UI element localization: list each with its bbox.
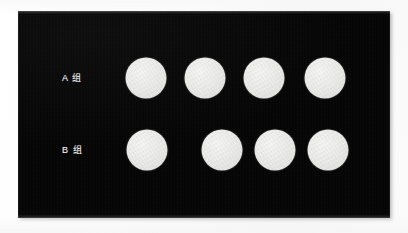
dot-a3 (244, 58, 285, 99)
dot-a4 (305, 58, 346, 99)
dot-b1 (127, 130, 168, 171)
screenshot-canvas: A 组 B 组 (0, 0, 408, 233)
row-label-b: B 组 (62, 146, 83, 155)
dot-b2 (202, 130, 243, 171)
row-label-a: A 组 (62, 74, 83, 83)
dot-comparison-panel: A 组 B 组 (18, 11, 390, 218)
dot-a2 (185, 58, 226, 99)
dot-b3 (255, 130, 296, 171)
dot-b4 (308, 130, 349, 171)
dot-a1 (126, 58, 167, 99)
